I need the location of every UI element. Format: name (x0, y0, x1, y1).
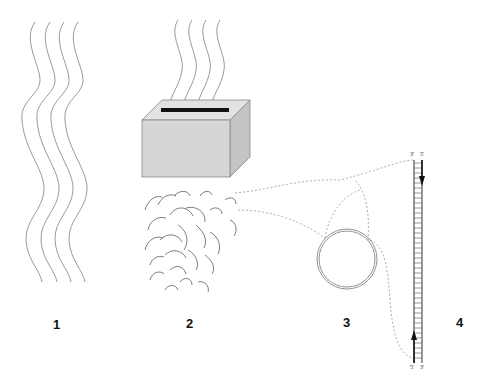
fragments (145, 191, 236, 292)
double-strand-circle (317, 229, 377, 289)
ladder-top-right-end: 5' (420, 151, 424, 157)
dashed-connectors (235, 160, 414, 358)
panel-label-1: 1 (53, 317, 60, 332)
box-slot (161, 108, 229, 112)
wavy-strands-panel-1 (22, 22, 87, 282)
ladder-rungs (414, 163, 422, 358)
panel-label-2: 2 (186, 316, 193, 331)
panel-label-3: 3 (343, 315, 350, 330)
processing-box (142, 100, 250, 177)
strands-into-box (168, 20, 224, 111)
double-strand-ladder (411, 160, 425, 363)
ladder-bottom-left-end: 5' (410, 364, 414, 370)
ladder-bottom-right-end: 3' (420, 364, 424, 370)
panel-label-4: 4 (456, 315, 463, 330)
diagram-canvas (0, 0, 482, 382)
ladder-top-left-end: 3' (410, 151, 414, 157)
